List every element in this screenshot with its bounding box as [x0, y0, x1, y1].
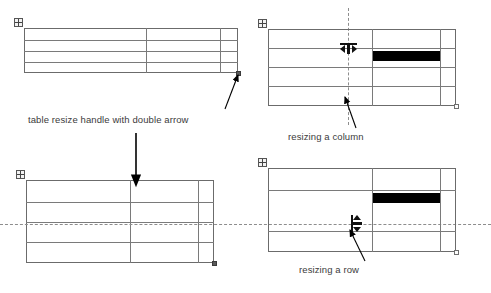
table-resize-grip[interactable]: [454, 104, 459, 109]
row-divider[interactable]: [268, 86, 456, 87]
row-divider[interactable]: [268, 67, 456, 68]
table-resize-grip[interactable]: [212, 261, 217, 266]
row-divider[interactable]: [24, 51, 238, 52]
table-before-resize[interactable]: [24, 28, 238, 73]
table-resizing-column[interactable]: [268, 29, 456, 106]
table-after-resize[interactable]: [26, 180, 214, 263]
table-resize-grip[interactable]: [454, 250, 459, 255]
row-divider[interactable]: [24, 62, 238, 63]
row-divider[interactable]: [26, 242, 214, 243]
table-grid: [268, 168, 456, 252]
table-move-handle[interactable]: [16, 170, 25, 179]
column-divider[interactable]: [372, 29, 373, 106]
arrow-to-resize-grip: [225, 75, 238, 109]
caption-resizing-row: resizing a row: [299, 264, 359, 275]
column-divider[interactable]: [220, 28, 221, 73]
selected-cell[interactable]: [373, 51, 440, 61]
column-divider[interactable]: [372, 168, 373, 252]
column-divider[interactable]: [440, 168, 441, 252]
column-divider[interactable]: [198, 180, 199, 263]
row-resize-cursor-icon: [351, 215, 362, 232]
table-move-handle[interactable]: [14, 18, 23, 27]
table-move-handle[interactable]: [258, 158, 267, 167]
column-divider[interactable]: [130, 180, 131, 263]
row-divider[interactable]: [268, 231, 456, 232]
diagram-canvas: table resize handle with double arrow re…: [0, 0, 491, 293]
row-divider[interactable]: [26, 222, 214, 223]
row-divider[interactable]: [268, 48, 456, 49]
column-divider[interactable]: [146, 28, 147, 73]
table-resize-grip[interactable]: [236, 71, 241, 76]
table-grid: [24, 28, 238, 73]
row-divider[interactable]: [24, 40, 238, 41]
caption-resizing-column: resizing a column: [288, 131, 364, 142]
table-resizing-row[interactable]: [268, 168, 456, 252]
row-divider[interactable]: [268, 190, 456, 191]
caption-resize-handle: table resize handle with double arrow: [28, 114, 189, 125]
table-grid: [26, 180, 214, 263]
table-move-handle[interactable]: [258, 19, 267, 28]
row-divider[interactable]: [26, 202, 214, 203]
column-divider[interactable]: [440, 29, 441, 106]
selected-cell[interactable]: [373, 193, 440, 203]
col-resize-cursor-icon: [340, 43, 357, 54]
table-grid: [268, 29, 456, 106]
